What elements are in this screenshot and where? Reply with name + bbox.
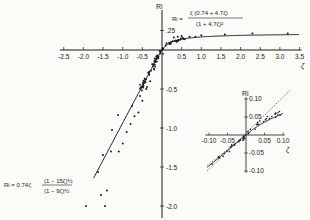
data-point [141,86,143,88]
y-tick-label: -1.5 [166,164,178,171]
inset-data-point [222,156,224,158]
inset-reference-dashed [207,90,290,171]
data-point [126,131,128,133]
inset-data-point [238,141,240,143]
data-point [100,194,102,196]
data-point [155,55,157,57]
data-point [160,50,162,52]
inset-y-tick-label: 0.10 [249,95,262,102]
inset-data-point [279,111,281,113]
inset-data-point [243,135,245,137]
x-tick-label: 3.0 [275,53,284,60]
inset-data-point [226,151,228,153]
inset-data-point [231,144,233,146]
inset-fit-line [207,113,283,167]
inset-data-point [223,153,225,155]
data-point [156,60,158,62]
inset-data-point [277,112,279,114]
data-point [165,44,167,46]
inset-data-point [238,139,240,141]
data-point [153,69,155,71]
data-point [172,40,174,42]
inset-data-point [277,114,279,116]
inset-data-point [263,121,265,123]
data-point [143,80,145,82]
data-point [111,129,113,131]
data-point [130,123,132,125]
chart-canvas: -2.5-2.0-1.5-1.0-0.50.51.01.52.02.53.03.… [0,0,310,220]
stable-equation-denominator: (1 + 4.7ζ)² [196,21,223,27]
inset-data-point [229,151,231,153]
inset-x-tick-label: 0.05 [258,137,271,144]
x-tick-label: 2.0 [236,53,245,60]
stable-equation-numerator: ζ (0.74 + 4.7ζ) [190,10,228,16]
data-point [141,100,143,102]
y-tick-label: .25 [166,27,175,34]
data-point [175,40,177,42]
data-point [148,73,150,75]
stable-fit-curve [162,35,299,50]
data-point [146,86,148,88]
data-point [133,115,135,117]
inset-data-point [269,118,271,120]
unstable-fit-curve [94,50,162,178]
inset-data-point [275,116,277,118]
data-point [97,171,99,173]
data-point [102,154,104,156]
data-point [152,65,154,67]
y-tick-label: -0.5 [166,86,178,93]
unstable-equation-prefix: Ri = 0.74ζ [4,182,31,188]
data-point [110,150,112,152]
inset-data-point [256,124,258,126]
inset-data-point [247,131,249,133]
inset-data-point [271,116,273,118]
main-plot: -2.5-2.0-1.5-1.0-0.50.51.01.52.02.53.03.… [58,10,304,218]
data-point [251,33,253,35]
x-axis-label: ζ [301,62,305,70]
y-tick-label: -2.0 [166,203,178,210]
x-tick-label: -1.5 [97,53,109,60]
x-tick-label: -0.5 [137,53,149,60]
data-point [154,60,156,62]
data-point [139,95,141,97]
data-point [157,57,159,59]
data-point [139,84,141,86]
inset-data-point [244,138,246,140]
inset-data-point [274,113,276,115]
data-point [154,66,156,68]
y-tick-label: -1.0 [166,125,178,132]
data-point [177,36,179,38]
data-point [142,87,144,89]
inset-data-point [257,122,259,124]
inset-data-point [211,163,213,165]
data-point [162,53,164,55]
stable-equation-prefix: Ri = [172,16,183,22]
x-tick-label: -1.0 [117,53,129,60]
inset-y-tick-label: 0.05 [249,113,262,120]
data-point [189,36,191,38]
x-tick-label: -2.0 [78,53,90,60]
data-point [181,35,183,37]
x-tick-label: 0.5 [177,53,186,60]
data-point [162,48,164,50]
data-point [287,33,289,35]
x-tick-label: 1.0 [197,53,206,60]
inset-data-point [266,118,268,120]
data-point [131,105,133,107]
data-point [152,64,154,66]
inset-x-axis-label: ζ [286,146,290,154]
data-point [142,83,144,85]
inset-data-point [279,114,281,116]
inset-data-point [234,144,236,146]
inset-y-tick-label: -0.05 [249,149,264,156]
x-tick-label: 2.5 [256,53,265,60]
data-point [139,87,141,89]
data-point [137,111,139,113]
x-tick-label: 1.5 [216,53,225,60]
data-point [149,80,151,82]
data-point [122,143,124,145]
data-point [145,88,147,90]
inset-data-point [248,133,250,135]
inset-data-point [249,128,251,130]
data-point [173,37,175,39]
